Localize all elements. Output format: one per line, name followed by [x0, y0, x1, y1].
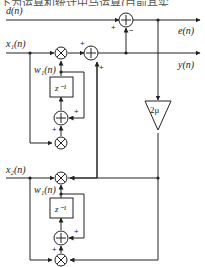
- multiplier-1: [55, 47, 67, 59]
- adaptive-filter-diagram: z⁻¹ z⁻¹ 2μ d(n) e(n) y(n) x₁(n) w₁(n) x₂…: [0, 0, 205, 267]
- delay-label-2: z⁻¹: [54, 204, 67, 214]
- multiplier-2: [55, 172, 67, 184]
- sign-plus: +: [99, 63, 104, 72]
- weight1-label: w₁(n): [34, 64, 56, 76]
- delay-label-1: z⁻¹: [54, 83, 67, 93]
- summer-output: [84, 46, 98, 60]
- sign-plus: +: [52, 245, 57, 254]
- multiplier-update2: [55, 254, 67, 266]
- summer-error: [119, 13, 133, 27]
- sign-plus: +: [52, 125, 57, 134]
- sign-plus: +: [80, 39, 85, 48]
- sign-plus: +: [111, 23, 116, 32]
- error-signal-label: e(n): [178, 25, 195, 37]
- desired-signal-label: d(n): [6, 5, 23, 17]
- sign-plus: +: [74, 107, 79, 116]
- weight2-label: w₁(n): [34, 184, 56, 196]
- summer-weight2: [54, 231, 68, 245]
- gain-label: 2μ: [150, 105, 160, 115]
- input2-label: x₂(n): [5, 164, 26, 176]
- sign-plus: +: [74, 227, 79, 236]
- input1-label: x₁(n): [5, 38, 26, 50]
- output-signal-label: y(n): [177, 59, 195, 71]
- sign-minus: −: [129, 26, 134, 35]
- summer-weight1: [54, 111, 68, 125]
- multiplier-update1: [55, 137, 67, 149]
